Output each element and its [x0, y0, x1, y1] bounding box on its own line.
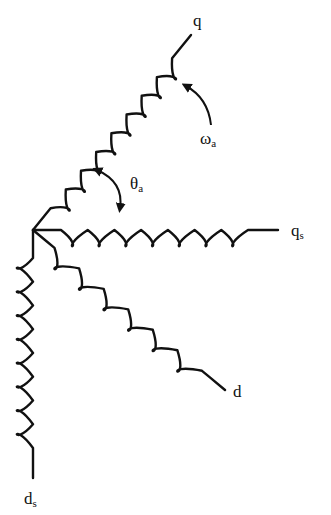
label-omega-a: ωa: [200, 130, 216, 149]
coil-diagram: [0, 0, 331, 515]
coil-d: [33, 230, 225, 390]
omega-arrow: [186, 86, 211, 125]
label-d: d: [233, 383, 242, 402]
label-theta-a: θa: [130, 175, 143, 194]
coil-group: [17, 35, 278, 478]
label-qs: qs: [291, 222, 304, 241]
label-q: q: [193, 12, 202, 31]
coil-qs: [33, 230, 278, 246]
theta-arrow: [97, 170, 121, 208]
label-ds: ds: [24, 490, 37, 509]
coil-q: [33, 35, 191, 230]
coil-ds: [17, 230, 33, 478]
